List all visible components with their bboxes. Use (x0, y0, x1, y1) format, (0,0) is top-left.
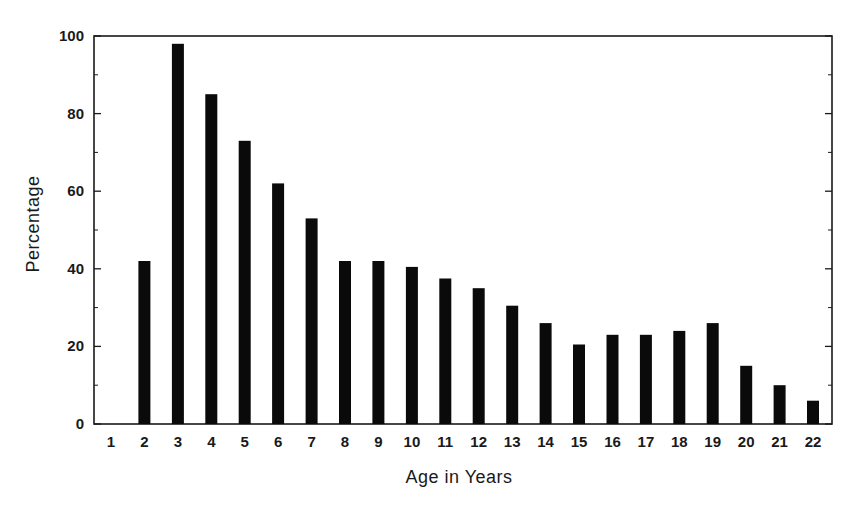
bar-age-13 (506, 306, 518, 424)
x-tick-label: 7 (307, 433, 315, 450)
x-tick-label: 15 (571, 433, 588, 450)
x-tick-label: 6 (274, 433, 282, 450)
bar-age-16 (607, 335, 619, 424)
bar-chart: 020406080100 123456789101112131415161718… (0, 0, 855, 513)
x-tick-label: 16 (604, 433, 621, 450)
bar-age-17 (640, 335, 652, 424)
y-tick-label: 20 (67, 337, 84, 354)
y-tick-label: 0 (76, 415, 84, 432)
x-tick-label: 3 (174, 433, 182, 450)
bar-age-6 (272, 183, 284, 424)
x-tick-label: 11 (437, 433, 453, 450)
x-tick-label: 1 (107, 433, 115, 450)
bar-age-8 (339, 261, 351, 424)
x-tick-label: 18 (671, 433, 688, 450)
bar-age-20 (740, 366, 752, 424)
bar-age-5 (239, 141, 251, 424)
x-tick-label: 21 (771, 433, 788, 450)
x-tick-label: 20 (738, 433, 755, 450)
y-axis-title: Percentage (23, 175, 43, 272)
y-tick-label: 60 (67, 182, 84, 199)
bar-age-7 (306, 218, 318, 424)
x-tick-label: 22 (805, 433, 822, 450)
bar-age-10 (406, 267, 418, 424)
plot-area-border (94, 36, 832, 424)
y-tick-label: 40 (67, 260, 84, 277)
bar-age-9 (372, 261, 384, 424)
bar-age-15 (573, 345, 585, 425)
y-tick-label: 100 (59, 27, 84, 44)
x-tick-label: 12 (470, 433, 487, 450)
bar-age-18 (673, 331, 685, 424)
bar-age-2 (138, 261, 150, 424)
x-tick-label: 10 (404, 433, 421, 450)
x-tick-label: 19 (704, 433, 721, 450)
y-tick-label: 80 (67, 105, 84, 122)
plot-frame (94, 36, 832, 424)
x-tick-label: 8 (341, 433, 349, 450)
bar-age-21 (774, 385, 786, 424)
x-tick-label: 4 (207, 433, 216, 450)
bars (138, 44, 819, 424)
x-tick-label: 9 (374, 433, 382, 450)
bar-age-4 (205, 94, 217, 424)
x-tick-label: 14 (537, 433, 554, 450)
x-axis-title: Age in Years (405, 467, 512, 487)
x-axis-ticks: 12345678910111213141516171819202122 (107, 433, 822, 450)
bar-age-22 (807, 401, 819, 424)
bar-age-12 (473, 288, 485, 424)
bar-age-3 (172, 44, 184, 424)
bar-age-11 (439, 279, 451, 425)
bar-age-19 (707, 323, 719, 424)
x-tick-label: 17 (638, 433, 655, 450)
x-tick-label: 2 (140, 433, 148, 450)
bar-age-14 (540, 323, 552, 424)
x-tick-label: 13 (504, 433, 521, 450)
x-tick-label: 5 (241, 433, 249, 450)
